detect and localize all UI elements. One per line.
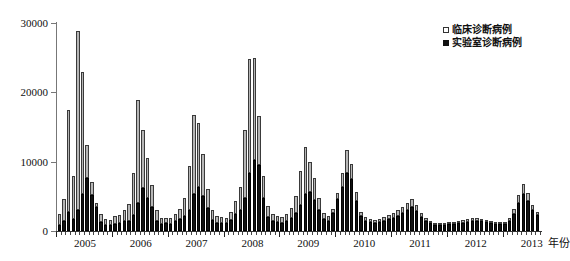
bar-segment-clinical [313, 178, 316, 200]
bar-segment-clinical [522, 184, 525, 194]
bar-segment-clinical [285, 214, 288, 221]
chart-legend: 临床诊断病例 实验室诊断病例 [443, 24, 522, 50]
x-tick-minor [121, 232, 122, 235]
bar-segment-laboratory [188, 210, 191, 231]
bar-segment-clinical [81, 72, 84, 195]
bar-segment-laboratory [76, 210, 79, 231]
x-tick-minor [489, 232, 490, 235]
bar-segment-laboratory [211, 220, 214, 231]
bar-segment-clinical [234, 201, 237, 215]
bar-segment-clinical [517, 195, 520, 203]
x-tick-minor [154, 232, 155, 235]
bar-segment-laboratory [132, 215, 135, 231]
bar-segment-clinical [406, 203, 409, 210]
x-tick-minor [484, 232, 485, 235]
x-tick-minor [247, 232, 248, 235]
bar-segment-laboratory [253, 160, 256, 231]
x-tick-minor [512, 232, 513, 235]
y-tick-label: 20000 [21, 87, 49, 98]
bar-segment-laboratory [392, 218, 395, 231]
bar-segment-laboratory [406, 210, 409, 231]
bar-segment-laboratory [280, 223, 283, 231]
x-tick-label: 2013 [521, 237, 543, 249]
x-tick-minor [340, 232, 341, 235]
bar-segment-laboratory [109, 225, 112, 231]
x-tick-label: 2005 [74, 237, 96, 249]
bar-segment-laboratory [90, 195, 93, 231]
bar-segment-laboratory [512, 214, 515, 231]
x-tick-minor [470, 232, 471, 235]
x-tick-minor [126, 232, 127, 235]
bar-segment-clinical [304, 147, 307, 193]
plot-area [57, 23, 541, 231]
bar-segment-laboratory [243, 198, 246, 231]
x-tick-minor [84, 232, 85, 235]
bar-segment-clinical [229, 212, 232, 220]
bar-segment-laboratory [359, 216, 362, 231]
bar-segment-clinical [271, 214, 274, 222]
bar-segment-laboratory [141, 188, 144, 231]
x-tick-minor [466, 232, 467, 235]
bar-segment-laboratory [95, 207, 98, 231]
x-tick-minor [428, 232, 429, 235]
bar-segment-laboratory [466, 222, 469, 231]
x-tick-minor [289, 232, 290, 235]
bar-segment-laboratory [503, 224, 506, 231]
x-tick-minor [251, 232, 252, 235]
bar-segment-laboratory [127, 221, 130, 231]
x-tick-minor [372, 232, 373, 235]
bar-segment-laboratory [113, 224, 116, 231]
bar-segment-clinical [188, 166, 191, 210]
bar-segment-laboratory [58, 225, 61, 231]
bar-segment-laboratory [471, 221, 474, 231]
bar-segment-laboratory [396, 216, 399, 231]
bar-segment-laboratory [229, 220, 232, 231]
bar-segment-laboratory [443, 225, 446, 231]
legend-label-laboratory: 实验室诊断病例 [452, 37, 522, 49]
x-tick-label: 2010 [353, 237, 375, 249]
bar-segment-laboratory [85, 178, 88, 231]
x-tick-minor [284, 232, 285, 235]
bar-segment-laboratory [225, 223, 228, 231]
x-tick-minor [400, 232, 401, 235]
x-tick-minor [214, 232, 215, 235]
bar-segment-clinical [174, 214, 177, 222]
bar-segment-laboratory [308, 192, 311, 231]
x-tick-minor [382, 232, 383, 235]
bar-segment-laboratory [257, 165, 260, 231]
x-tick-minor [377, 232, 378, 235]
bar-segment-laboratory [382, 221, 385, 231]
bar-segment-clinical [127, 204, 130, 221]
bar-segment-laboratory [438, 225, 441, 231]
x-tick-minor [65, 232, 66, 235]
x-tick-minor [163, 232, 164, 235]
x-tick-minor [535, 232, 536, 235]
x-tick-minor [354, 232, 355, 235]
x-tick-minor [438, 232, 439, 235]
x-tick-minor [345, 232, 346, 235]
y-tick-label: 0 [43, 226, 49, 237]
bar-segment-laboratory [378, 222, 381, 231]
bar-segment-clinical [118, 215, 121, 223]
bar-segment-clinical [197, 123, 200, 187]
bar-segment-laboratory [276, 222, 279, 231]
bar-segment-clinical [136, 100, 139, 203]
bar-segment-laboratory [410, 207, 413, 231]
bar-segment-laboratory [522, 194, 525, 231]
bar-segment-laboratory [517, 203, 520, 231]
bar-segment-clinical [350, 164, 353, 179]
bar-segment-laboratory [81, 194, 84, 231]
bar-segment-clinical [266, 206, 269, 217]
x-tick-minor [307, 232, 308, 235]
x-tick-minor [191, 232, 192, 235]
bar-segment-clinical [206, 189, 209, 208]
bar-segment-laboratory [461, 223, 464, 231]
bar-segment-laboratory [123, 221, 126, 231]
bar-segment-clinical [299, 171, 302, 204]
x-tick-minor [270, 232, 271, 235]
bar-segment-clinical [239, 187, 242, 210]
bar-segment-laboratory [206, 208, 209, 231]
bar-segment-laboratory [169, 224, 172, 231]
x-tick-minor [238, 232, 239, 235]
